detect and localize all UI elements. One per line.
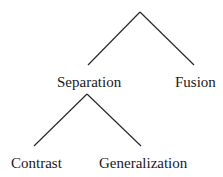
edge-root-separation [88,12,140,65]
edge-root-fusion [140,12,194,65]
node-contrast: Contrast [11,156,62,171]
node-separation: Separation [57,75,121,90]
edge-separation-contrast [34,94,87,146]
node-fusion: Fusion [175,75,216,90]
node-generalization: Generalization [99,156,187,171]
tree-diagram: Separation Fusion Contrast Generalizatio… [0,0,223,177]
edge-separation-generalization [87,94,141,146]
